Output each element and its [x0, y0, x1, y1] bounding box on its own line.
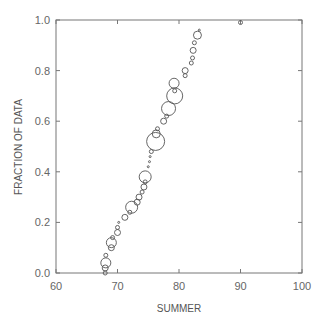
y-axis-ticks: 0.00.20.40.60.81.0: [35, 14, 302, 279]
x-axis-ticks: 60708090100: [50, 20, 311, 292]
data-point: [182, 68, 188, 74]
data-point: [147, 132, 165, 150]
data-point: [193, 31, 201, 39]
data-point: [198, 29, 200, 31]
data-point: [147, 166, 149, 168]
x-axis-label: SUMMER: [157, 303, 201, 314]
data-point: [118, 221, 120, 223]
x-tick-label: 80: [173, 280, 185, 292]
data-point: [139, 171, 151, 183]
y-tick-label: 1.0: [35, 14, 50, 26]
y-tick-label: 0.0: [35, 267, 50, 279]
data-point: [192, 41, 196, 45]
data-point: [189, 61, 193, 65]
data-point: [173, 89, 177, 93]
data-point: [148, 161, 150, 163]
data-point: [190, 47, 196, 53]
data-point: [101, 258, 111, 268]
x-tick-label: 100: [293, 280, 311, 292]
data-point: [191, 56, 195, 60]
x-tick-label: 70: [111, 280, 123, 292]
data-point: [161, 118, 167, 124]
data-point: [141, 184, 147, 190]
y-tick-label: 0.4: [35, 166, 50, 178]
data-point: [104, 253, 108, 257]
y-tick-label: 0.2: [35, 216, 50, 228]
scatter-chart: 60708090100 0.00.20.40.60.81.0 SUMMER FR…: [0, 0, 325, 326]
data-point: [116, 225, 120, 229]
data-point: [140, 190, 144, 194]
y-tick-label: 0.6: [35, 115, 50, 127]
x-tick-label: 90: [234, 280, 246, 292]
y-axis-label: FRACTION OF DATA: [13, 99, 24, 195]
data-point: [143, 180, 147, 184]
data-point: [167, 88, 183, 104]
data-points: [101, 21, 243, 275]
data-point: [136, 194, 142, 200]
data-point: [183, 74, 187, 78]
data-point: [169, 78, 179, 88]
data-point: [122, 214, 128, 220]
data-point: [149, 156, 151, 158]
data-point: [115, 230, 121, 236]
x-tick-label: 60: [50, 280, 62, 292]
y-tick-label: 0.8: [35, 65, 50, 77]
data-point: [152, 130, 160, 138]
plot-frame: [56, 20, 302, 273]
